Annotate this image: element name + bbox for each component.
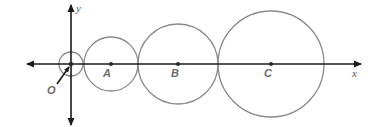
center-a-dot — [109, 62, 113, 66]
origin-label: O — [47, 84, 56, 96]
x-axis-label: x — [351, 67, 357, 79]
center-b-label: B — [171, 67, 179, 79]
center-c-dot — [269, 62, 273, 66]
center-b-dot — [176, 62, 180, 66]
origin-dot — [69, 62, 73, 66]
center-c-label: C — [264, 67, 273, 79]
center-a-label: A — [102, 67, 111, 79]
y-axis-label: y — [75, 2, 81, 14]
tangent-circles-diagram: y x O A B C — [0, 0, 383, 127]
